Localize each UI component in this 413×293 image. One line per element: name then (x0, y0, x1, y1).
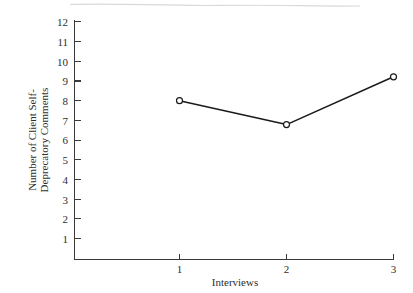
data-series (177, 74, 397, 128)
y-axis: 12 11 10 9 8 7 6 5 4 3 2 1 (57, 16, 81, 259)
x-axis-tick-labels: 1 2 3 (177, 263, 397, 275)
series-line (180, 77, 394, 125)
y-tick-label: 4 (63, 174, 69, 186)
y-axis-title-line-2: Deprecatory Comments (38, 88, 50, 193)
y-tick-label: 6 (63, 134, 69, 146)
data-point-marker (284, 122, 290, 128)
y-tick-label: 11 (57, 36, 68, 48)
y-tick-label: 5 (63, 154, 69, 166)
y-tick-label: 3 (63, 194, 69, 206)
y-axis-tick-labels: 12 11 10 9 8 7 6 5 4 3 2 1 (57, 16, 69, 245)
x-tick-label: 2 (284, 263, 290, 275)
y-axis-title-line-1: Number of Client Self- (26, 89, 38, 191)
x-axis: 1 2 3 (74, 254, 397, 276)
x-axis-ticks (180, 254, 394, 260)
data-point-marker (391, 74, 397, 80)
y-axis-ticks (75, 22, 81, 239)
y-tick-label: 10 (57, 56, 69, 68)
y-axis-title: Number of Client Self- Deprecatory Comme… (26, 88, 50, 193)
data-point-marker (177, 98, 183, 104)
y-tick-label: 12 (57, 16, 68, 28)
x-axis-title: Interviews (212, 276, 258, 288)
x-tick-label: 3 (391, 263, 397, 275)
y-tick-label: 1 (63, 233, 69, 245)
line-chart: 12 11 10 9 8 7 6 5 4 3 2 1 1 (0, 0, 413, 293)
figure-canvas: 12 11 10 9 8 7 6 5 4 3 2 1 1 (0, 0, 413, 293)
x-tick-label: 1 (177, 263, 183, 275)
y-tick-label: 7 (63, 115, 69, 127)
y-tick-label: 8 (63, 95, 69, 107)
y-tick-label: 2 (63, 213, 69, 225)
y-tick-label: 9 (63, 75, 69, 87)
